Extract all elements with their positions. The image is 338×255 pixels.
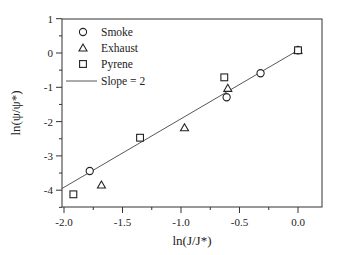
y-axis-ticks: 10-1-2-3-4	[44, 13, 62, 208]
scatter-chart: 10-1-2-3-4 -2.0-1.5-1.0-0.50.0 SmokeExha…	[0, 0, 338, 255]
x-tick-label: 0.0	[291, 216, 305, 228]
x-axis-label: ln(J/J*)	[173, 233, 212, 248]
y-tick-label: -4	[44, 184, 54, 196]
legend: SmokeExhaustPyreneSlope = 2	[66, 26, 145, 88]
x-tick-label: -2.0	[55, 216, 73, 228]
x-tick-label: -0.5	[231, 216, 249, 228]
pyrene-square-marker	[221, 74, 228, 81]
legend-label: Slope = 2	[101, 75, 145, 88]
legend-circle-icon	[79, 28, 86, 35]
y-tick-label: -3	[44, 150, 54, 162]
y-axis-label: ln(ψ/ψ*)	[8, 90, 23, 135]
pyrene-square-marker	[70, 191, 77, 198]
exhaust-triangle-marker	[181, 124, 189, 131]
y-tick-label: 0	[48, 47, 54, 59]
legend-square-icon	[80, 61, 87, 68]
x-tick-label: -1.5	[114, 216, 132, 228]
smoke-circle-marker	[223, 94, 230, 101]
x-tick-label: -1.0	[172, 216, 190, 228]
legend-label: Pyrene	[101, 58, 133, 71]
legend-label: Smoke	[101, 26, 133, 38]
smoke-circle-marker	[86, 167, 93, 174]
exhaust-triangle-marker	[97, 181, 105, 188]
smoke-circle-marker	[257, 70, 264, 77]
pyrene-square-marker	[137, 134, 144, 141]
y-tick-label: -1	[44, 81, 53, 93]
y-tick-label: 1	[48, 13, 54, 25]
legend-label: Exhaust	[101, 42, 139, 54]
exhaust-triangle-marker	[224, 84, 232, 91]
y-tick-label: -2	[44, 116, 53, 128]
pyrene-square-marker	[295, 47, 302, 54]
x-axis-ticks: -2.0-1.5-1.0-0.50.0	[55, 207, 305, 228]
legend-triangle-icon	[79, 44, 87, 51]
